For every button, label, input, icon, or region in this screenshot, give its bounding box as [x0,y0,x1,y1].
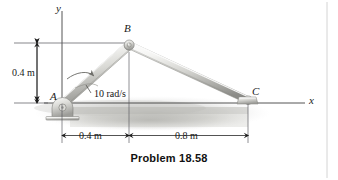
point-label-C: C [252,85,259,97]
x-axis-label: x [309,94,314,106]
point-label-B: B [124,22,131,34]
slider-block-C [237,97,258,104]
figure-caption: Problem 18.58 [0,152,338,164]
dimension-label-height: 0.4 m [12,67,35,78]
point-label-A: A [50,90,57,102]
angular-velocity-label: 10 rad/s [94,88,126,99]
y-axis-label: y [56,2,61,14]
dimension-label-AB: 0.4 m [79,130,102,141]
link-BC [128,42,253,105]
dimension-height [34,42,40,104]
pin-joint-B [124,40,134,50]
dimension-label-BC: 0.8 m [175,130,198,141]
